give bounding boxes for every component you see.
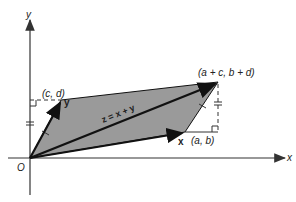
right-angle-marker-ab [212, 126, 218, 132]
double-tick-right [214, 102, 222, 105]
origin-label: O [17, 162, 25, 173]
right-angle-marker-cd [30, 100, 36, 106]
point-cd-label: (c, d) [42, 88, 65, 99]
vector-x-label: x [178, 136, 184, 147]
y-axis-label: y [25, 9, 32, 20]
parallelogram-diagram: y x O (c, d) (a + c, b + d) (a, b) x y z… [0, 0, 296, 202]
x-axis-label: x [286, 152, 293, 163]
vector-y-label: y [64, 97, 70, 108]
point-sum-label: (a + c, b + d) [198, 67, 255, 78]
point-ab-label: (a, b) [191, 135, 214, 146]
